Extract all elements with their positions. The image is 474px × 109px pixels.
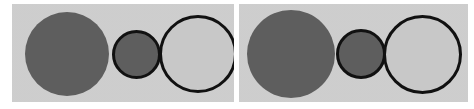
right-panel-large-dark-disc (247, 10, 335, 98)
right-panel (239, 4, 468, 102)
left-panel-large-dark-disc (25, 12, 109, 96)
right-panel-medium-dark-outlined-disc (336, 29, 386, 79)
illustration-canvas (0, 0, 474, 109)
left-panel (12, 4, 234, 102)
right-panel-large-light-outlined-circle (383, 15, 462, 94)
left-panel-medium-dark-outlined-disc (112, 30, 161, 79)
left-panel-large-light-outlined-circle (159, 15, 234, 93)
